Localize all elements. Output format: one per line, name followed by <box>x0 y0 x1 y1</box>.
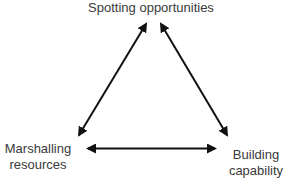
arrow-top-right <box>161 24 227 135</box>
diagram-canvas: Spotting opportunities Marshalling resou… <box>0 0 287 183</box>
node-spotting-opportunities: Spotting opportunities <box>88 0 214 16</box>
node-building-capability: Building capability <box>226 147 286 179</box>
node-label-line2: capability <box>226 163 286 179</box>
node-label-line1: Building <box>226 147 286 163</box>
node-marshalling-resources: Marshalling resources <box>0 141 76 173</box>
node-label-line1: Marshalling <box>0 141 76 157</box>
node-label-line2: resources <box>0 157 76 173</box>
arrow-top-left <box>79 24 146 135</box>
node-label: Spotting opportunities <box>88 0 214 15</box>
